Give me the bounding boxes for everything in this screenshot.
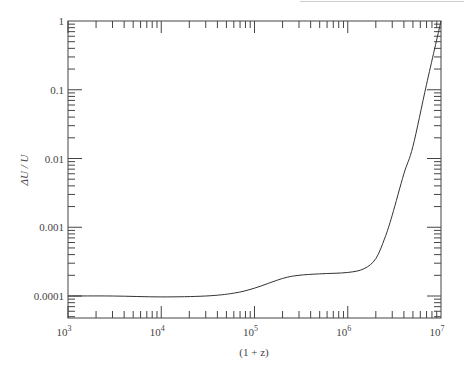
x-tick-label: 105 (243, 324, 258, 338)
tick-labels: 10310410510610710.10.010.0010.0001 (34, 15, 445, 338)
x-axis-label: (1 + z) (239, 346, 269, 359)
axes-frame (68, 21, 441, 318)
x-tick-label: 107 (430, 324, 445, 338)
axis-ticks (68, 21, 441, 318)
x-tick-label: 104 (150, 324, 165, 338)
data-line (68, 21, 441, 297)
y-axis-label: ΔU / U (18, 153, 30, 186)
y-tick-label: 0.001 (39, 221, 64, 233)
y-tick-label: 0.01 (45, 153, 64, 165)
y-tick-label: 0.0001 (34, 290, 64, 302)
x-tick-label: 103 (57, 324, 72, 338)
chart: 10310410510610710.10.010.0010.0001 (1 + … (0, 0, 464, 375)
y-tick-label: 0.1 (50, 84, 64, 96)
x-tick-label: 106 (336, 324, 351, 338)
y-tick-label: 1 (59, 15, 65, 27)
